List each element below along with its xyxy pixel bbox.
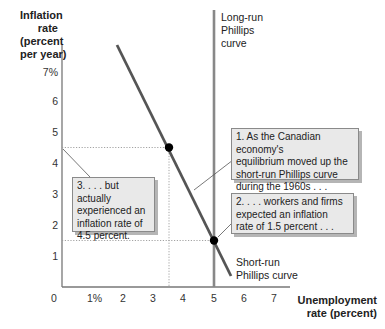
y-tick-3: 3: [40, 188, 58, 200]
y-tick-6: 6: [40, 95, 58, 107]
label-line: Phillips curve: [236, 269, 298, 282]
short-run-phillips-curve-label: Short-run Phillips curve: [236, 256, 298, 282]
callout-1: 1. As the Canadian economy's equilibrium…: [231, 128, 359, 180]
y-title-line: per year): [20, 48, 58, 61]
y-tick-4: 4: [40, 157, 58, 169]
y-title-line: rate: [20, 22, 58, 35]
callout-line: 3. . . . but actually: [77, 180, 150, 205]
x-tick-2: 2: [120, 292, 126, 304]
callout-line: inflation rate of: [77, 218, 150, 231]
callout-line: 1. As the Canadian economy's: [236, 131, 354, 156]
point-expected-vs-actual: [165, 143, 173, 151]
callout-line: during the 1960s . . .: [236, 181, 354, 194]
callout-3-leader: [63, 149, 90, 177]
callout-line: 2. . . . workers and firms: [236, 196, 349, 209]
callout-line: rate of 1.5 percent . . .: [236, 221, 349, 234]
x-axis-title: Unemployment rate (percent): [282, 294, 377, 320]
x-tick-0: 0: [51, 292, 57, 304]
label-line: curve: [221, 37, 263, 50]
y-title-line: Inflation: [20, 9, 58, 22]
x-tick-5: 5: [211, 292, 217, 304]
x-tick-3: 3: [150, 292, 156, 304]
callout-line: short-run Phillips curve: [236, 169, 354, 182]
x-tick-1: 1%: [87, 292, 102, 304]
callout-line: experienced an: [77, 205, 150, 218]
y-axis-title: Inflation rate (percent per year): [20, 9, 58, 61]
label-line: Short-run: [236, 256, 298, 269]
callout-line: 4.5 percent.: [77, 230, 150, 243]
x-tick-7: 7: [271, 292, 277, 304]
long-run-phillips-curve-label: Long-run Phillips curve: [221, 11, 263, 50]
y-tick-5: 5: [40, 126, 58, 138]
x-tick-4: 4: [180, 292, 186, 304]
callout-line: equilibrium moved up the: [236, 156, 354, 169]
callout-3: 3. . . . but actually experienced an inf…: [72, 177, 155, 232]
y-title-line: (percent: [20, 35, 58, 48]
callout-line: expected an inflation: [236, 209, 349, 222]
y-tick-1: 1: [40, 250, 58, 262]
x-title-line: rate (percent): [282, 307, 377, 320]
point-long-run-equilibrium: [210, 236, 218, 244]
x-title-line: Unemployment: [282, 294, 377, 307]
label-line: Phillips: [221, 24, 263, 37]
y-tick-2: 2: [40, 219, 58, 231]
label-line: Long-run: [221, 11, 263, 24]
y-tick-7: 7%: [40, 66, 58, 78]
x-tick-6: 6: [241, 292, 247, 304]
callout-2: 2. . . . workers and firms expected an i…: [231, 193, 354, 234]
